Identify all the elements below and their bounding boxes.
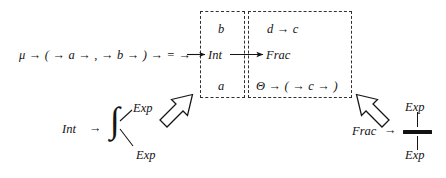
frac-production-arrow: →	[384, 123, 397, 138]
frac-production-upper-operand: Exp	[405, 100, 424, 115]
frac-production-lhs: Frac	[352, 124, 376, 139]
int-production-lhs: Int	[62, 122, 76, 137]
int-box-center-label: Int	[208, 48, 222, 63]
frac-box-bottom-label: Θ → ( → c → )	[256, 79, 338, 94]
int-box-bottom-label: a	[218, 79, 224, 94]
int-box-top-label: b	[218, 22, 224, 37]
frac-box-top-label: d → c	[267, 22, 299, 37]
frac-production-lower-operand: Exp	[405, 148, 424, 163]
integral-operand-connectors	[120, 110, 133, 146]
int-production-lower-operand: Exp	[136, 148, 155, 163]
int-production-upper-operand: Exp	[133, 101, 152, 116]
integral-sign-icon: ∫	[110, 102, 120, 138]
int-production-arrow: →	[89, 121, 102, 136]
frac-box-center-label: Frac	[266, 48, 290, 63]
diagram-canvas: μ → ( → a → , → b → ) → = → b Int a d → …	[0, 0, 446, 178]
fraction-bar-icon	[403, 130, 432, 134]
left-block-arrow	[160, 95, 193, 128]
mu-rule-expression: μ → ( → a → , → b → ) → = →	[19, 48, 191, 63]
